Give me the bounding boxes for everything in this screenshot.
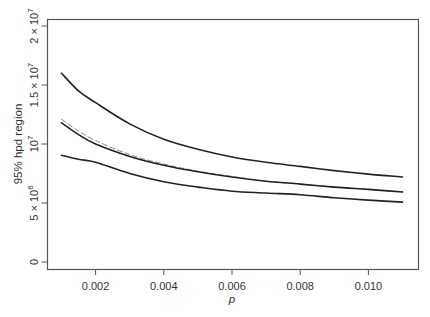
y-tick-label: 0 <box>28 259 40 265</box>
plot-frame <box>48 20 419 270</box>
y-tick-label: 5 × 106 <box>26 185 40 221</box>
series-line-3 <box>62 155 403 202</box>
y-axis-label: 95% hpd region <box>12 104 24 185</box>
x-tick-label: 0.010 <box>355 280 383 292</box>
series-line-0 <box>62 73 403 177</box>
x-axis: 0.0020.0040.0060.0080.010 <box>82 270 382 293</box>
x-tick-label: 0.002 <box>82 280 110 292</box>
y-tick-label: 1.5 × 107 <box>26 62 40 107</box>
chart: 0.0020.0040.0060.0080.010 05 × 1061071.5… <box>0 0 430 317</box>
x-tick-label: 0.008 <box>286 280 314 292</box>
y-axis: 05 × 1061071.5 × 1072 × 107 <box>26 8 48 265</box>
series-line-1 <box>62 119 403 192</box>
y-tick-label: 107 <box>26 135 40 152</box>
series-layer <box>62 73 403 202</box>
x-axis-label: p <box>228 293 236 305</box>
y-tick-label: 2 × 107 <box>26 8 40 44</box>
x-tick-label: 0.004 <box>150 280 178 292</box>
x-tick-label: 0.006 <box>218 280 246 292</box>
